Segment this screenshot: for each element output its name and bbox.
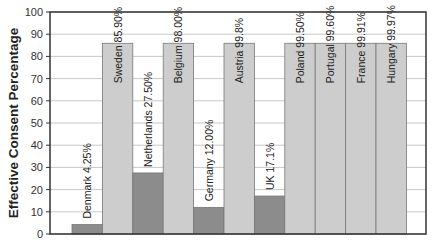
bars: Denmark 4.25%Sweden 85.90%Netherlands 27… [72, 5, 406, 234]
bar-label: France 99.91% [355, 12, 367, 83]
y-tick-label: 40 [31, 139, 43, 151]
bar-chart: 0102030405060708090100 Denmark 4.25%Swed… [0, 0, 436, 247]
y-tick-label: 70 [31, 73, 43, 85]
bar-label: Austria 99.8% [233, 18, 245, 83]
y-tick-label: 80 [31, 50, 43, 62]
bar-label: Poland 99.50% [294, 12, 306, 83]
bar-label: Portugal 99.60% [324, 6, 336, 84]
y-tick-label: 50 [31, 117, 43, 129]
bar-label: Netherlands 27.50% [142, 72, 154, 167]
bar-label: UK 17.1% [264, 143, 276, 190]
bar-netherlands [133, 173, 163, 234]
y-tick-label: 60 [31, 95, 43, 107]
bar-label: Denmark 4.25% [81, 143, 93, 218]
y-tick-label: 30 [31, 161, 43, 173]
bar-label: Sweden 85.90% [112, 7, 124, 83]
bar-uk [254, 196, 284, 234]
bar-label: Belgium 98.00% [172, 7, 184, 83]
bar-label: Hungary 99.97% [385, 5, 397, 83]
bar-denmark [72, 225, 102, 234]
y-tick-label: 90 [31, 28, 43, 40]
bar-germany [194, 207, 224, 234]
y-axis-ticks: 0102030405060708090100 [25, 6, 50, 240]
y-tick-label: 10 [31, 206, 43, 218]
bar-label: Germany 12.00% [203, 120, 215, 202]
y-tick-label: 100 [25, 6, 43, 18]
y-tick-label: 20 [31, 184, 43, 196]
y-tick-label: 0 [37, 228, 43, 240]
